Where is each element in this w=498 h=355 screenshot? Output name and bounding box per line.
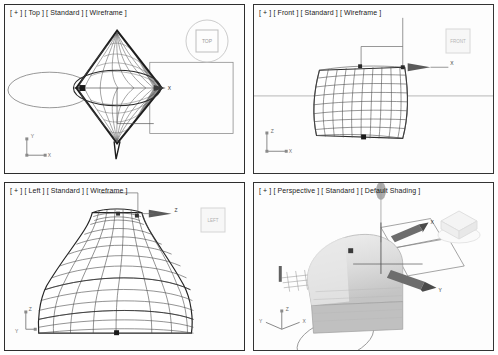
- viewport-front[interactable]: [ + ] [ Front ] [ Standard ] [ Wireframe…: [249, 0, 498, 178]
- viewcube-top-face-label: TOP: [202, 38, 213, 44]
- viewcube-perspective-icon[interactable]: [433, 201, 485, 249]
- gizmo-axis-label-z: Z: [175, 208, 178, 213]
- viewport-grid: [ + ] [ Top ] [ Standard ] [ Wireframe ]: [0, 0, 498, 355]
- selection-rectangle[interactable]: [150, 62, 233, 133]
- viewport-perspective-canvas[interactable]: [ + ] [ Perspective ] [ Standard ] [ Def…: [253, 182, 494, 351]
- viewport-left-label[interactable]: [ + ] [ Left ] [ Standard ] [ Wireframe …: [10, 186, 128, 195]
- viewcube-front-icon[interactable]: FRONT: [443, 26, 473, 56]
- viewcube-front-face-label: FRONT: [450, 39, 466, 44]
- tripod-label-up: Z: [29, 307, 32, 312]
- viewport-perspective[interactable]: [ + ] [ Perspective ] [ Standard ] [ Def…: [249, 178, 498, 355]
- tripod-label-right: X: [303, 319, 307, 324]
- barrel-wireframe-grid[interactable]: [314, 66, 408, 138]
- viewcube-top-icon[interactable]: TOP: [183, 17, 231, 65]
- viewport-front-canvas[interactable]: [ + ] [ Front ] [ Standard ] [ Wireframe…: [253, 4, 494, 174]
- tripod-label-up: Z: [286, 307, 289, 312]
- application-window: [ + ] [ Top ] [ Standard ] [ Wireframe ]: [0, 0, 498, 355]
- gizmo-axis-label-y: Y: [438, 288, 442, 293]
- viewcube-left[interactable]: LEFT: [198, 205, 228, 235]
- axis-tripod: Z X: [265, 129, 292, 154]
- viewcube-front[interactable]: FRONT: [443, 26, 473, 56]
- tripod-label-right: X: [48, 153, 52, 158]
- tripod-label-right: Y: [15, 329, 19, 334]
- viewcube-perspective[interactable]: [433, 201, 485, 249]
- viewport-left[interactable]: [ + ] [ Left ] [ Standard ] [ Wireframe …: [0, 178, 249, 355]
- viewport-top-label[interactable]: [ + ] [ Top ] [ Standard ] [ Wireframe ]: [10, 8, 127, 17]
- axis-tripod: Y X: [25, 134, 51, 158]
- tripod-label-up: Y: [31, 134, 35, 139]
- axis-tripod: Z X Y: [259, 307, 307, 329]
- tripod-label-up: Z: [271, 129, 274, 134]
- viewport-front-label[interactable]: [ + ] [ Front ] [ Standard ] [ Wireframe…: [259, 8, 381, 17]
- shaded-solid[interactable]: [307, 234, 402, 333]
- viewport-top-canvas[interactable]: [ + ] [ Top ] [ Standard ] [ Wireframe ]: [4, 4, 245, 174]
- viewcube-left-icon[interactable]: LEFT: [198, 205, 228, 235]
- gizmo-axis-label-x: X: [450, 61, 454, 66]
- gizmo-axis-label-x: X: [168, 86, 172, 91]
- viewcube-left-face-label: LEFT: [207, 218, 218, 223]
- tripod-label-depth: Y: [259, 319, 263, 324]
- viewcube-top[interactable]: TOP: [183, 17, 231, 65]
- viewport-top[interactable]: [ + ] [ Top ] [ Standard ] [ Wireframe ]: [0, 0, 249, 178]
- axis-tripod: Z Y: [15, 307, 37, 334]
- diamond-lathe-mesh[interactable]: [73, 31, 161, 159]
- vase-lathe-wireframe[interactable]: [38, 209, 193, 333]
- viewport-left-canvas[interactable]: [ + ] [ Left ] [ Standard ] [ Wireframe …: [4, 182, 245, 351]
- viewport-perspective-label[interactable]: [ + ] [ Perspective ] [ Standard ] [ Def…: [259, 186, 420, 195]
- tripod-label-right: X: [289, 149, 293, 154]
